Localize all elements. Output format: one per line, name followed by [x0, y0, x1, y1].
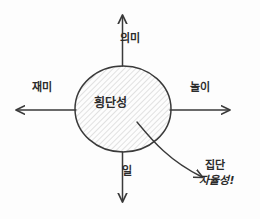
- axis-label-left: 재미: [32, 82, 52, 95]
- center-label: 횡단성: [94, 97, 128, 111]
- axis-label-right: 놀이: [190, 82, 210, 95]
- axis-label-bottom: 일: [122, 166, 132, 179]
- diagram-canvas: 횡단성 의미 일 재미 놀이 집단 자율성!: [0, 0, 260, 219]
- annotation-line-2: 자율성!: [199, 175, 235, 188]
- annotation-text: 집단 자율성!: [205, 160, 235, 187]
- axis-label-top: 의미: [120, 33, 140, 46]
- annotation-line-1: 집단: [205, 159, 225, 172]
